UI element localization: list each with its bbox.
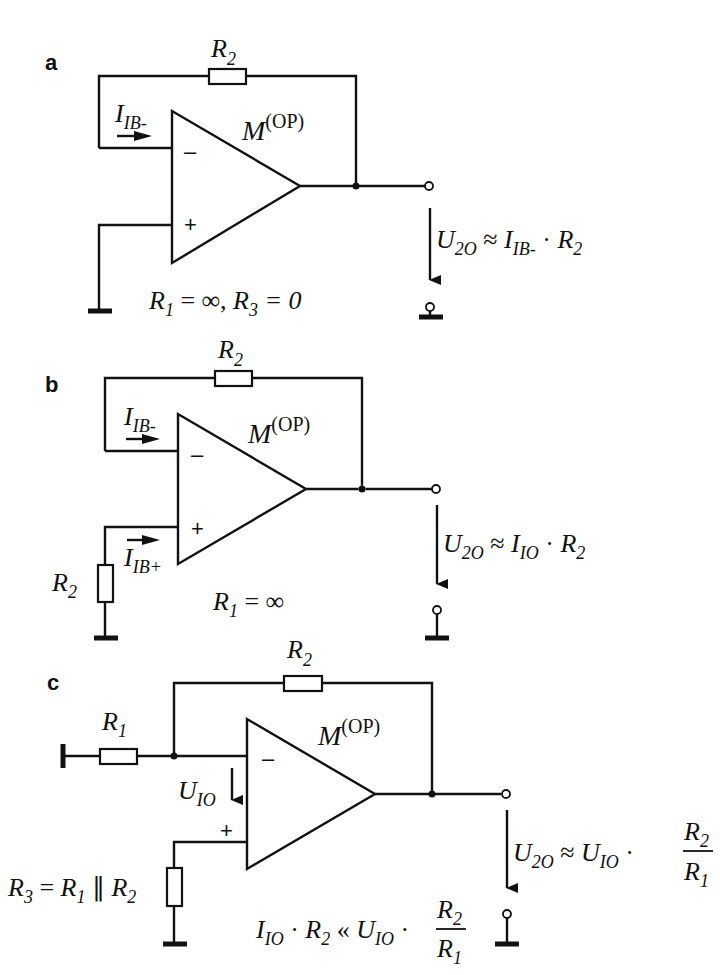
ground-terminal bbox=[433, 606, 441, 614]
minus-sign: – bbox=[184, 139, 197, 164]
opamp-b bbox=[178, 414, 306, 564]
panel-a-label: a bbox=[45, 50, 58, 75]
opamp-label: M(OP) bbox=[241, 110, 304, 146]
fraction-denominator: R1 bbox=[683, 857, 709, 891]
plus-sign: + bbox=[184, 212, 197, 237]
ground-terminal bbox=[426, 303, 434, 311]
condition-text: R1 = ∞ bbox=[212, 587, 284, 621]
output-terminal bbox=[502, 790, 510, 798]
opamp-label: M(OP) bbox=[317, 715, 380, 751]
minus-sign: – bbox=[191, 442, 204, 467]
ground-terminal bbox=[503, 910, 511, 918]
junction-dot bbox=[171, 753, 178, 760]
output-voltage-formula: U2O ≈ IIO · R2 bbox=[443, 529, 585, 563]
panel-c-label: c bbox=[47, 670, 59, 695]
input-resistor-label: R2 bbox=[51, 568, 77, 602]
current-ib-minus-label: IIB- bbox=[123, 402, 156, 436]
junction-dot bbox=[353, 183, 360, 190]
current-ib-minus-label: IIB- bbox=[114, 99, 147, 133]
resistor-r3 bbox=[167, 868, 182, 906]
junction-dot bbox=[359, 486, 366, 493]
opamp-a bbox=[172, 111, 300, 263]
condition-text: IIO · R2 « UIO · bbox=[255, 915, 409, 949]
condition-fraction-numerator: R2 bbox=[436, 895, 462, 929]
panel-b: b R2 – + M(OP) IIB- R2 IIB+ bbox=[45, 335, 585, 638]
output-voltage-formula: U2O ≈ IIB- · R2 bbox=[436, 225, 582, 259]
resistor-r2 bbox=[284, 676, 322, 691]
offset-voltage-label: UIO bbox=[178, 776, 216, 810]
plus-sign: + bbox=[220, 818, 233, 843]
condition-text: R1 = ∞, R3 = 0 bbox=[148, 286, 302, 320]
r2-label: R2 bbox=[286, 635, 312, 670]
resistor-r2-input bbox=[98, 565, 113, 602]
plus-sign: + bbox=[191, 516, 204, 541]
r2-label: R2 bbox=[217, 335, 243, 370]
fraction-numerator: R2 bbox=[683, 817, 709, 851]
output-terminal bbox=[432, 485, 440, 493]
minus-sign: – bbox=[262, 746, 275, 771]
current-arrow-icon bbox=[142, 535, 160, 545]
panel-a: a R2 – + M(OP) IIB- U2O ≈ IIB- · R2 bbox=[45, 34, 582, 320]
panel-c: c R2 R1 – + M(OP) UIO R3 = R1 ∥ R2 bbox=[7, 635, 713, 968]
r3-parallel-label: R3 = R1 ∥ R2 bbox=[7, 873, 136, 907]
noninverting-input-wire bbox=[174, 842, 247, 868]
r1-label: R1 bbox=[101, 707, 127, 741]
opamp-label: M(OP) bbox=[247, 413, 310, 449]
opamp-offset-circuits-figure: a R2 – + M(OP) IIB- U2O ≈ IIB- · R2 bbox=[0, 0, 720, 975]
panel-b-label: b bbox=[45, 372, 58, 397]
opamp-c bbox=[247, 719, 375, 869]
resistor-r1 bbox=[100, 749, 137, 764]
resistor-r2 bbox=[209, 69, 246, 84]
resistor-r2 bbox=[215, 371, 252, 386]
condition-fraction-denominator: R1 bbox=[436, 934, 462, 968]
output-terminal bbox=[425, 182, 433, 190]
junction-dot bbox=[429, 791, 436, 798]
r2-label: R2 bbox=[210, 34, 236, 69]
feedback-wire-left bbox=[105, 378, 215, 451]
current-ib-plus-label: IIB+ bbox=[123, 543, 162, 577]
output-voltage-formula: U2O ≈ UIO · bbox=[513, 838, 634, 872]
